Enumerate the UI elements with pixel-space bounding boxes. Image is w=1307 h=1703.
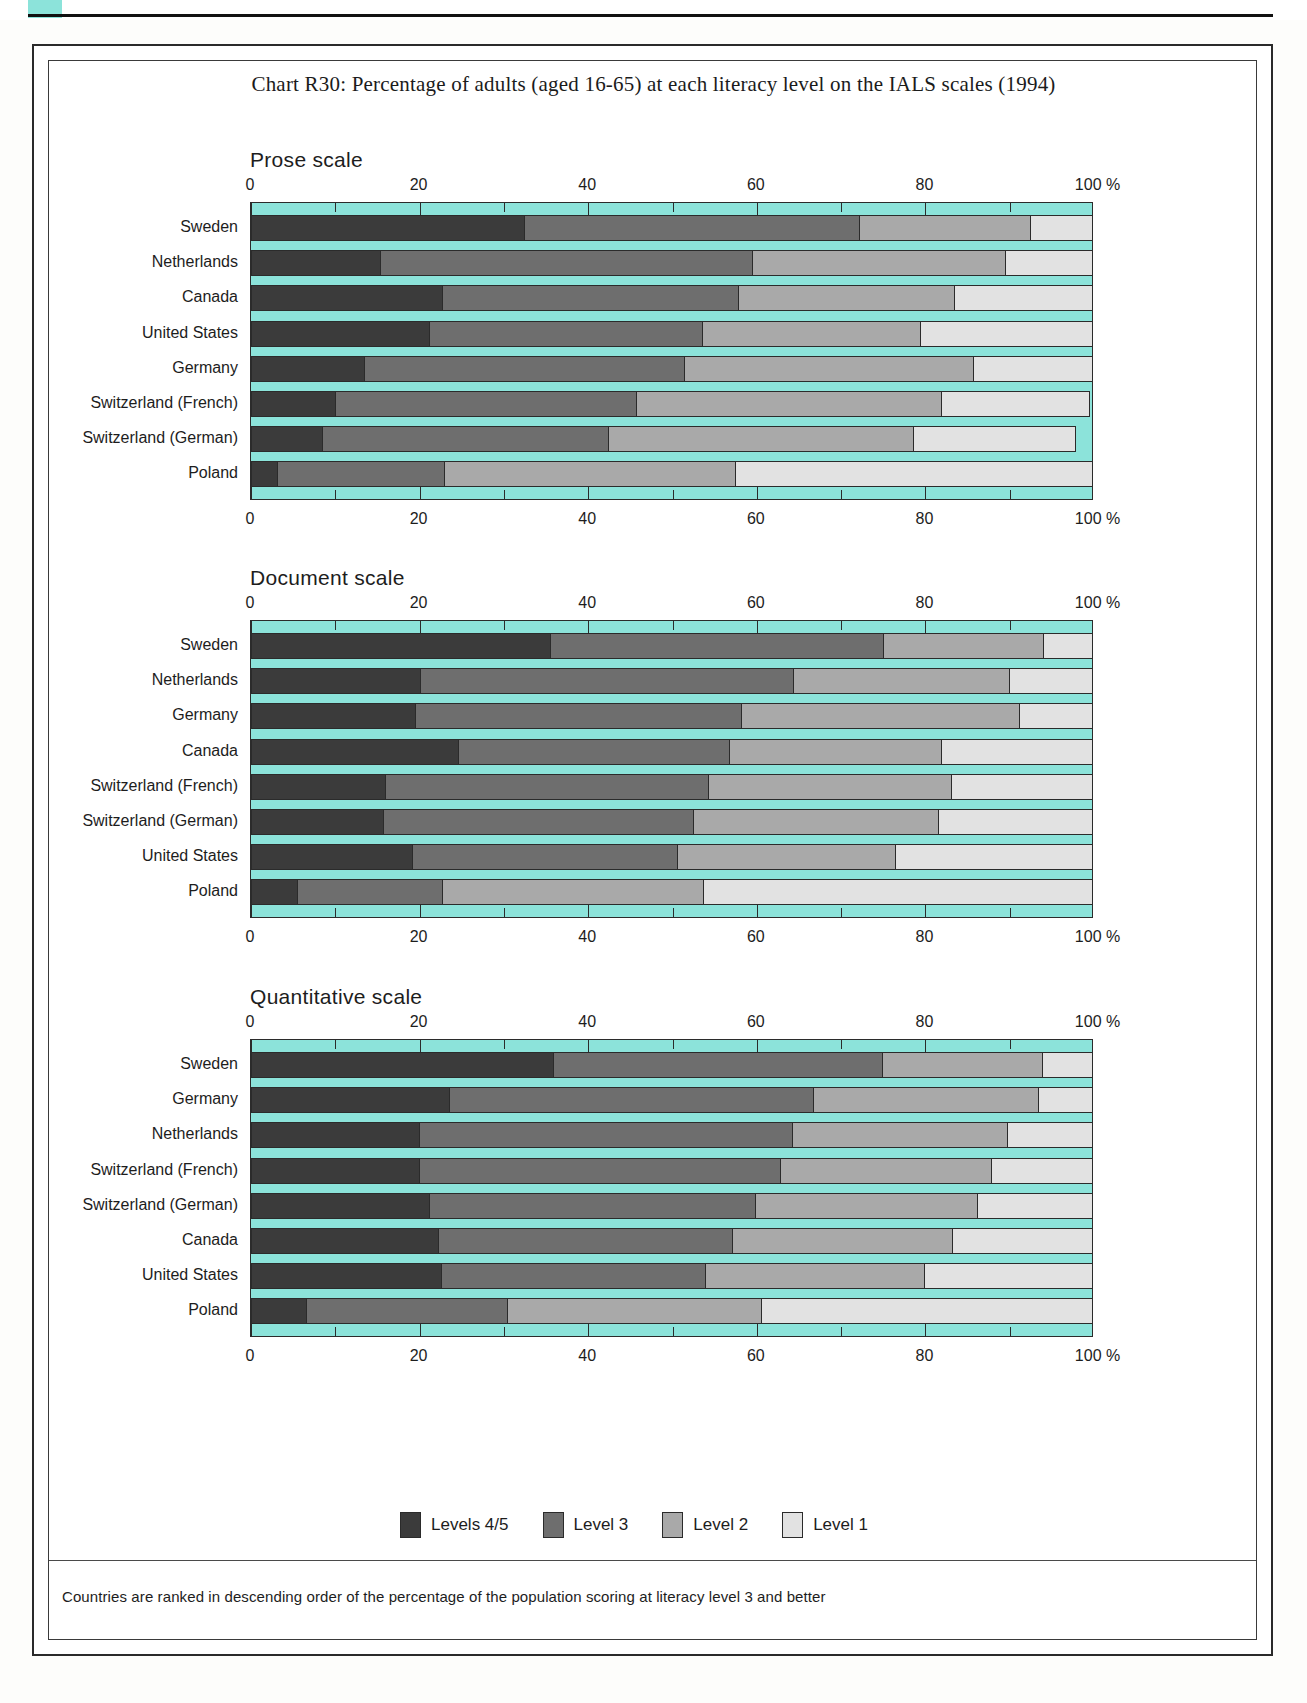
bar-segment [442,879,704,905]
bar-segment [383,809,694,835]
legend-label: Levels 4/5 [431,1515,509,1535]
x-tick-label-0: 0 [246,928,255,946]
bar-segment [412,844,678,870]
tick-mark [1010,490,1011,499]
bar-segment [813,1087,1038,1113]
bar-segment [335,391,637,417]
bar-segment [913,426,1077,452]
plot-area-quantitative [250,1039,1093,1337]
tick-mark [335,1327,336,1336]
tick-mark [841,621,842,630]
x-tick-label-0: 0 [246,510,255,528]
bar-segment [420,668,794,694]
bar-segment [693,809,939,835]
y-tick-label: Netherlands [0,1125,238,1143]
tick-mark [1010,908,1011,917]
axis-ticks [251,621,1092,917]
bar-segment [920,321,1093,347]
page-title: Chart R30: Percentage of adults (aged 16… [0,72,1307,97]
bar-segment [708,774,952,800]
bar-segment [741,703,1020,729]
bar-segment [761,1298,1093,1324]
bar-row [251,774,1092,800]
tick-mark [1010,1040,1011,1049]
bar-row [251,356,1092,382]
x-tick-label-80: 80 [915,594,933,612]
x-tick-label-60: 60 [747,928,765,946]
tick-mark [504,908,505,917]
x-tick-label-20: 20 [410,594,428,612]
legend-label: Level 1 [813,1515,868,1535]
y-tick-label: Canada [0,1231,238,1249]
tick-mark [335,203,336,212]
bar-segment [1009,668,1093,694]
y-tick-label: Poland [0,882,238,900]
bar-segment [703,879,1093,905]
x-tick-label-20: 20 [410,1013,428,1031]
tick-mark [1010,203,1011,212]
tick-mark [841,490,842,499]
bar-segment [251,844,413,870]
bar-segment [251,250,381,276]
bar-segment [793,668,1010,694]
legend-item: Levels 4/5 [400,1512,509,1538]
x-axis-labels-bottom: 020406080100 % [0,928,1307,948]
x-tick-label-60: 60 [747,1347,765,1365]
x-tick-label-60: 60 [747,594,765,612]
x-tick-label-60: 60 [747,176,765,194]
bar-segment [442,285,739,311]
bar-segment [251,426,323,452]
x-tick-label-80: 80 [915,176,933,194]
x-tick-label-100: 100 % [1075,1347,1120,1365]
y-tick-label: Switzerland (French) [0,394,238,412]
tick-mark [673,203,674,212]
bar-segment [297,879,443,905]
tick-mark [1010,1327,1011,1336]
bar-segment [954,285,1093,311]
y-tick-label: Germany [0,1090,238,1108]
bar-segment [251,1158,420,1184]
y-tick-label: United States [0,1266,238,1284]
x-tick-label-100: 100 % [1075,510,1120,528]
tick-mark [335,621,336,630]
axis-ticks [251,203,1092,499]
plot-area-prose [250,202,1093,500]
tick-mark [504,490,505,499]
bar-segment [677,844,896,870]
bar-segment [684,356,973,382]
bar-row [251,1193,1092,1219]
x-tick-label-20: 20 [410,1347,428,1365]
x-tick-label-40: 40 [578,594,596,612]
x-tick-label-100: 100 % [1075,928,1120,946]
y-tick-label: Germany [0,706,238,724]
y-axis-category-labels: SwedenNetherlandsGermanyCanadaSwitzerlan… [0,620,238,918]
bar-row [251,1052,1092,1078]
bar-row [251,426,1092,452]
tick-mark [673,621,674,630]
page-canvas: Chart R30: Percentage of adults (aged 16… [0,0,1307,1703]
x-axis-labels-top: 020406080100 % [0,1013,1307,1033]
bar-segment [251,321,430,347]
bar-row [251,461,1092,487]
chart-subtitle-quantitative: Quantitative scale [250,985,422,1009]
legend-swatch-l45 [400,1512,421,1538]
footnote-divider [49,1560,1256,1561]
x-tick-label-20: 20 [410,176,428,194]
y-tick-label: Netherlands [0,253,238,271]
bar-segment [780,1158,992,1184]
y-tick-label: Sweden [0,218,238,236]
bar-row [251,321,1092,347]
bar-segment [1005,250,1093,276]
bar-segment [507,1298,762,1324]
tick-mark [1010,621,1011,630]
bar-segment [977,1193,1093,1219]
bar-segment [380,250,753,276]
bar-row [251,668,1092,694]
bar-segment [1007,1122,1093,1148]
x-tick-label-80: 80 [915,510,933,528]
x-tick-label-80: 80 [915,1013,933,1031]
bar-segment [251,879,298,905]
legend-label: Level 3 [574,1515,629,1535]
y-tick-label: Netherlands [0,671,238,689]
bar-segment [364,356,685,382]
